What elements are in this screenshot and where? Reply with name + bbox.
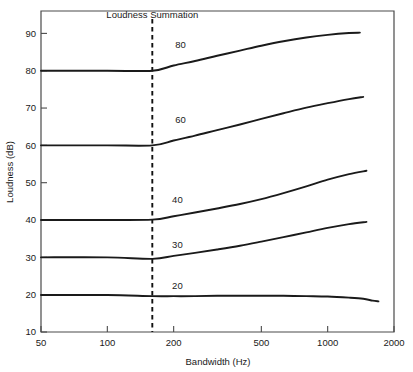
chart-background: [0, 0, 413, 372]
x-tick-label: 50: [36, 337, 47, 348]
y-tick-label: 70: [25, 102, 36, 113]
y-tick-label: 30: [25, 252, 36, 263]
loudness-summation-chart: 102030405060708090 5010020050010002000 8…: [0, 0, 413, 372]
chart-canvas: 102030405060708090 5010020050010002000 8…: [0, 0, 413, 372]
x-tick-label: 200: [166, 337, 182, 348]
curve-label-40: 40: [172, 194, 183, 205]
x-tick-label: 1000: [317, 337, 338, 348]
annotations-group: Loudness Summation: [106, 9, 198, 20]
y-tick-label: 50: [25, 177, 36, 188]
curve-label-80: 80: [175, 39, 186, 50]
curve-label-30: 30: [172, 239, 183, 250]
y-axis-tick-labels: 102030405060708090: [25, 28, 36, 338]
y-tick-label: 40: [25, 214, 36, 225]
x-tick-label: 100: [99, 337, 115, 348]
y-axis-title: Loudness (dB): [4, 141, 15, 203]
x-tick-label: 500: [253, 337, 269, 348]
curve-label-20: 20: [172, 280, 183, 291]
y-tick-label: 10: [25, 326, 36, 337]
x-tick-label: 2000: [383, 337, 404, 348]
y-tick-label: 20: [25, 289, 36, 300]
y-tick-label: 80: [25, 65, 36, 76]
y-tick-label: 90: [25, 28, 36, 39]
loudness-summation-label: Loudness Summation: [106, 9, 198, 20]
x-axis-title: Bandwidth (Hz): [186, 356, 251, 367]
y-tick-label: 60: [25, 140, 36, 151]
curve-label-60: 60: [175, 114, 186, 125]
